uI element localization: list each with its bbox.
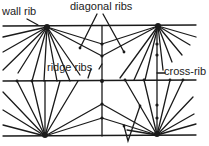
diagonal-leader-left (80, 14, 97, 48)
cross-rib-label: cross-rib (164, 66, 206, 77)
fan-bottom-left (3, 81, 102, 136)
bottom-wall-line (3, 135, 196, 136)
wall-rib-label: wall rib (2, 6, 36, 17)
fan-bottom-right (102, 80, 196, 135)
diagonal-leader-right (103, 14, 124, 52)
diagonal-ribs-label: diagonal ribs (70, 1, 132, 12)
wall-rib-leader (27, 19, 38, 25)
top-wall-line (3, 25, 196, 26)
ridge-ribs-label: ridge ribs (47, 62, 92, 73)
